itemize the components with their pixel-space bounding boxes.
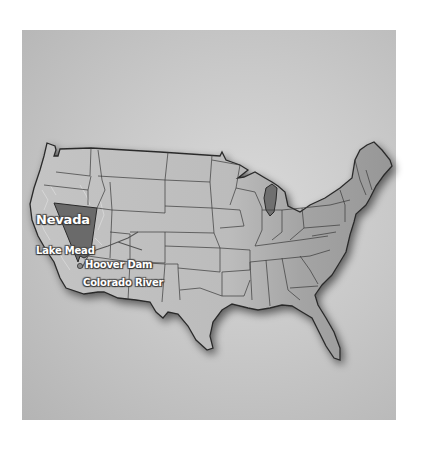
colorado-river-label: Colorado River: [83, 277, 163, 288]
hoover-dam-label: Hoover Dam: [85, 259, 152, 270]
nevada-label: Nevada: [36, 212, 90, 227]
lake-mead-label: Lake Mead: [36, 245, 95, 256]
hoover-dam-marker: [77, 263, 82, 268]
